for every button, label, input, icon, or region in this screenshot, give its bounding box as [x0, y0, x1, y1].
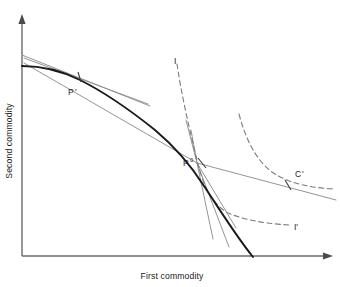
tangent-line-upper [24, 58, 148, 104]
label-p-prime: P [68, 87, 74, 97]
x-axis-arrowhead [323, 252, 333, 259]
label-c-prime: C [295, 169, 301, 179]
tangent-line-p-zero-third [197, 163, 236, 228]
label-p-prime-mark: ' [75, 87, 77, 97]
label-indifference-I: I [174, 56, 176, 66]
production-possibility-frontier [22, 66, 253, 257]
label-p-zero-superscript: 0 [190, 157, 193, 163]
label-p-zero: P [183, 158, 189, 168]
indifference-curves-group [177, 64, 335, 225]
economics-figure: P ' P 0 C ' I I' First commodity Second … [0, 0, 340, 287]
label-c-prime-mark: ' [302, 169, 304, 179]
x-axis-label: First commodity [141, 271, 204, 281]
y-axis-label: Second commodity [4, 103, 14, 179]
axes-group [18, 14, 333, 260]
ppf-group [22, 66, 253, 257]
labels-group: P ' P 0 C ' I I' First commodity Second … [4, 56, 304, 281]
label-indifference-I-prime: I' [294, 222, 298, 232]
price-lines-group [22, 55, 336, 247]
diagram-canvas: P ' P 0 C ' I I' First commodity Second … [0, 0, 340, 287]
y-axis-arrowhead [18, 14, 25, 24]
tangent-line-p-zero-second [191, 130, 229, 247]
